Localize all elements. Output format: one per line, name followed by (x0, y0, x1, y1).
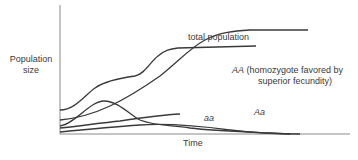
label-aa: aa (204, 113, 214, 124)
label-Aa: Aa (254, 107, 265, 118)
label-AA-line2: superior fecundity) (258, 76, 332, 87)
x-axis-label: Time (183, 138, 203, 149)
label-AA: AA (homozygote favored by (232, 65, 343, 76)
label-total-population: total population (188, 32, 249, 43)
label-AA-genotype: AA (232, 65, 244, 75)
curve-aa-declining (60, 124, 300, 134)
y-axis-label-line1: Population (6, 54, 56, 65)
y-axis-label-line2: size (6, 65, 56, 76)
label-AA-desc: (homozygote favored by (244, 65, 343, 75)
y-axis-label: Population size (6, 54, 56, 76)
